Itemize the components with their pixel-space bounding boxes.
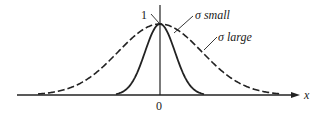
x-axis-arrowhead-icon bbox=[291, 92, 300, 98]
sigma-small-label: σ small bbox=[195, 8, 231, 22]
sigma-large-label: σ large bbox=[218, 30, 252, 44]
leader-peak bbox=[151, 14, 159, 23]
gaussian-diagram: 1 σ small σ large 0 x bbox=[0, 0, 324, 117]
leader-sigma-small bbox=[174, 16, 193, 33]
origin-label: 0 bbox=[156, 99, 162, 113]
diagram-svg: 1 σ small σ large 0 x bbox=[0, 0, 324, 117]
leader-sigma-large bbox=[204, 37, 217, 50]
peak-label: 1 bbox=[141, 8, 147, 22]
x-axis-label: x bbox=[303, 88, 310, 102]
